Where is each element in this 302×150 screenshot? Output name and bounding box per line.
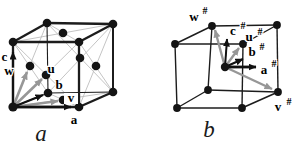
atom (76, 54, 85, 63)
figure-b: w # c # u # b # a # v # b (171, 5, 291, 142)
atom (109, 20, 118, 29)
atom-body-center (221, 63, 229, 71)
label-w-sup: # (203, 5, 208, 16)
atom (173, 104, 181, 112)
atom (75, 38, 84, 47)
label-u-sharp: u (245, 29, 252, 44)
label-b: b (55, 77, 62, 92)
crystal-figure-pair: c w u b v a a (0, 0, 302, 150)
label-v: v (68, 90, 75, 105)
label-c-sharp: c (230, 23, 236, 38)
atom (238, 104, 246, 112)
figure-a: c w u b v a a (2, 19, 118, 146)
label-u-sup: # (258, 26, 263, 37)
atom-origin (8, 102, 17, 111)
vector-w-sharp-arrow (215, 30, 225, 67)
atom (109, 88, 118, 97)
label-u: u (47, 61, 54, 76)
label-c: c (2, 49, 8, 64)
atom (44, 89, 53, 98)
label-a-sharp: a (261, 62, 268, 77)
label-v-sup: # (287, 96, 292, 107)
label-a-sup: # (272, 58, 277, 69)
label-b-sharp: b (248, 44, 255, 59)
atom (273, 21, 281, 29)
atom (208, 22, 216, 30)
caption-a: a (35, 121, 47, 146)
crystal-diagram-svg: c w u b v a a (0, 0, 302, 150)
atom (92, 62, 101, 71)
atom (204, 86, 212, 94)
label-a: a (71, 112, 78, 127)
label-b-sup: # (260, 41, 265, 52)
atom (43, 19, 52, 28)
caption-b: b (203, 117, 215, 142)
atom (9, 38, 18, 47)
atom (171, 40, 179, 48)
atom (26, 62, 35, 71)
label-w: w (4, 63, 14, 78)
atom (274, 88, 282, 96)
cube-b-vectors (215, 30, 272, 89)
atom (59, 29, 68, 38)
label-v-sharp: v (275, 99, 282, 114)
label-w-sharp: w (189, 9, 199, 24)
